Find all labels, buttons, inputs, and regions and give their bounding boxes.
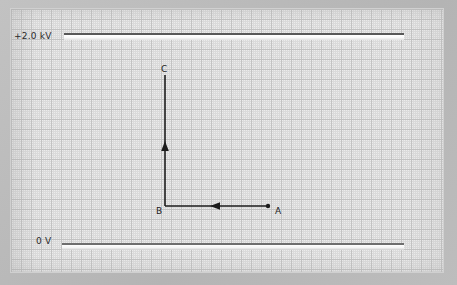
diagram-screenshot: +2.0 kV 0 V A B C [0, 0, 457, 285]
plate-bottom-face [62, 245, 404, 250]
top-plate-voltage-label: +2.0 kV [14, 31, 51, 41]
bottom-electrode-plate [62, 243, 404, 250]
point-b-label: B [156, 206, 162, 216]
point-c-label: C [161, 64, 167, 74]
graph-paper-grid [11, 9, 443, 272]
plate-top-face [64, 35, 404, 40]
point-a-label: A [275, 206, 281, 216]
top-electrode-plate [64, 33, 404, 40]
bottom-plate-voltage-label: 0 V [36, 236, 51, 246]
